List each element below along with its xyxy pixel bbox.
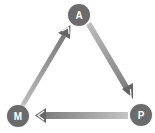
arrow-m-to-a	[20, 25, 71, 109]
arrow-a-to-p	[86, 22, 133, 99]
node-p: P	[127, 101, 155, 129]
node-m: M	[4, 102, 32, 130]
node-m-label: M	[14, 111, 22, 122]
diagram-canvas: A P M	[0, 0, 155, 133]
node-a-label: A	[75, 10, 82, 21]
arrow-p-to-m	[35, 108, 128, 123]
node-a: A	[65, 1, 93, 29]
node-p-label: P	[138, 110, 145, 121]
cycle-diagram: A P M	[0, 0, 155, 133]
